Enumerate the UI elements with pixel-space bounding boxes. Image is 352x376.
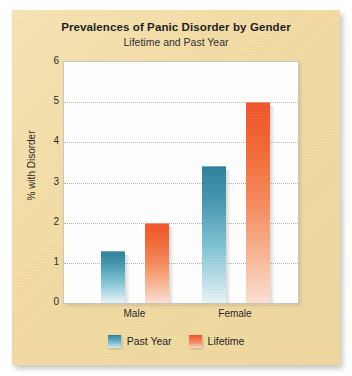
bar-female-lifetime (246, 102, 270, 303)
y-axis-tick-label: 4 (41, 135, 59, 147)
title-block: Prevalences of Panic Disorder by Gender … (12, 20, 340, 49)
bar-male-lifetime (145, 223, 169, 303)
chart-subtitle: Lifetime and Past Year (12, 35, 340, 49)
y-axis-tick-label: 5 (41, 95, 59, 107)
x-axis-tick-label: Male (94, 308, 174, 320)
chart-card: Prevalences of Panic Disorder by Gender … (12, 10, 340, 365)
chart-legend: Past YearLifetime (12, 335, 340, 348)
legend-swatch-orange (189, 335, 202, 348)
x-axis-tick-labels: MaleFemale (63, 308, 299, 324)
bar-female-past-year (202, 166, 226, 303)
y-axis-title: % with Disorder (26, 101, 37, 231)
plot-area (64, 62, 298, 303)
y-axis-tick-labels: 0123456 (41, 61, 59, 304)
plot-frame (63, 61, 299, 304)
legend-label: Past Year (127, 335, 172, 348)
chart-title: Prevalences of Panic Disorder by Gender (12, 20, 340, 34)
y-axis-tick-label: 3 (41, 176, 59, 188)
legend-swatch-teal (108, 335, 121, 348)
y-axis-tick-label: 2 (41, 216, 59, 228)
legend-item-lifetime[interactable]: Lifetime (189, 335, 245, 348)
legend-item-past-year[interactable]: Past Year (108, 335, 172, 348)
y-axis-tick-label: 6 (41, 55, 59, 67)
x-axis-tick-label: Female (195, 308, 275, 320)
bar-male-past-year (101, 251, 125, 303)
y-axis-tick-label: 1 (41, 256, 59, 268)
legend-label: Lifetime (208, 335, 245, 348)
y-axis-tick-label: 0 (41, 296, 59, 308)
